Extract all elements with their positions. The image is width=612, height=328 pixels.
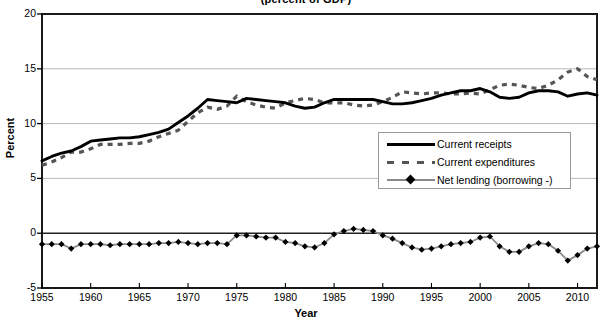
chart-container: (percent of GDP) Percent Year 20151050-5… xyxy=(0,0,612,328)
x-tick-label: 1975 xyxy=(215,291,259,303)
x-tick-label: 1970 xyxy=(166,291,210,303)
legend-label-current-receipts: Current receipts xyxy=(437,138,512,150)
legend-swatch-solid-line-icon xyxy=(385,137,437,151)
legend-label-net-lending: Net lending (borrowing -) xyxy=(437,174,553,186)
series-net-lending xyxy=(39,226,600,264)
legend-item-net-lending: Net lending (borrowing -) xyxy=(379,170,572,189)
x-tick-label: 2010 xyxy=(556,291,600,303)
legend-label-current-expenditures: Current expenditures xyxy=(437,156,535,168)
legend-item-current-expenditures: Current expenditures xyxy=(379,152,572,171)
x-tick-label: 1980 xyxy=(263,291,307,303)
legend-item-current-receipts: Current receipts xyxy=(379,134,572,153)
chart-legend: Current receipts Current expenditures Ne… xyxy=(378,132,571,189)
x-tick-label: 1955 xyxy=(20,291,64,303)
x-tick-label: 2000 xyxy=(458,291,502,303)
x-tick-label: 1990 xyxy=(361,291,405,303)
x-tick-label: 1965 xyxy=(117,291,161,303)
x-tick-label: 1985 xyxy=(312,291,356,303)
x-tick-label: 1995 xyxy=(409,291,453,303)
legend-swatch-diamond-marker-icon xyxy=(385,173,437,187)
legend-swatch-dashed-line-icon xyxy=(385,155,437,169)
x-tick-label: 2005 xyxy=(507,291,551,303)
x-tick-label: 1960 xyxy=(69,291,113,303)
